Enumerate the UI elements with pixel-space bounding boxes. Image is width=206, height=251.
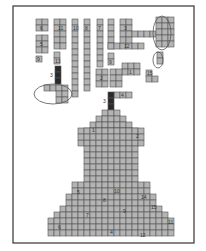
grid-cell: [162, 212, 168, 218]
piece-label: 8: [85, 25, 88, 31]
grid-cell: [120, 122, 126, 128]
grid-cell: [84, 158, 90, 164]
grid-cell: [126, 188, 132, 194]
grid-cell: [96, 134, 102, 140]
grid-cell: [84, 128, 90, 134]
grid-cell: [114, 110, 120, 116]
grid-cell: [138, 43, 144, 49]
grid-cell: [90, 170, 96, 176]
grid-cell: [144, 31, 150, 37]
grid-cell: [96, 122, 102, 128]
grid-cell: [84, 55, 90, 61]
grid-cell: [60, 43, 66, 49]
region-label: 8: [103, 197, 106, 203]
region-label: 6: [58, 224, 61, 230]
grid-cell: [72, 218, 78, 224]
piece-18: 15: [146, 70, 153, 76]
grid-cell: [114, 152, 120, 158]
grid-cell: [134, 63, 140, 69]
grid-cell: [126, 230, 132, 236]
grid-cell: [108, 92, 114, 98]
grid-cell: [72, 43, 78, 49]
grid-cell: [90, 140, 96, 146]
piece-label: 3: [50, 72, 53, 78]
grid-cell: [66, 194, 72, 200]
grid-cell: [78, 224, 84, 230]
grid-cell: [132, 158, 138, 164]
dark-piece-0: 3: [50, 66, 61, 84]
piece-0: 6: [36, 19, 48, 31]
grid-cell: [60, 230, 66, 236]
grid-cell: [90, 206, 96, 212]
grid-cell: [120, 116, 126, 122]
grid-cell: [114, 224, 120, 230]
grid-cell: [72, 37, 78, 43]
grid-cell: [132, 194, 138, 200]
grid-cell: [108, 164, 114, 170]
grid-cell: [90, 152, 96, 158]
piece-label: 10: [73, 25, 79, 31]
piece-label: 1: [129, 69, 132, 75]
grid-cell: [102, 206, 108, 212]
grid-cell: [138, 140, 144, 146]
region-label: 14: [141, 194, 147, 200]
grid-cell: [126, 182, 132, 188]
grid-cell: [90, 188, 96, 194]
grid-cell: [84, 43, 90, 49]
grid-cell: [84, 85, 90, 91]
grid-cell: [36, 47, 42, 53]
grid-cell: [114, 200, 120, 206]
grid-cell: [72, 85, 78, 91]
grid-cell: [84, 79, 90, 85]
grid-cell: [60, 224, 66, 230]
grid-cell: [120, 164, 126, 170]
grid-cell: [116, 75, 122, 81]
grid-cell: [90, 218, 96, 224]
grid-cell: [126, 164, 132, 170]
grid-cell: [84, 31, 90, 37]
grid-cell: [102, 152, 108, 158]
grid-cell: [162, 29, 168, 35]
grid-cell: [116, 81, 122, 87]
grid-cell: [156, 17, 162, 23]
grid-cell: [126, 122, 132, 128]
grid-cell: [168, 230, 174, 236]
grid-cell: [132, 31, 138, 37]
grid-cell: [156, 230, 162, 236]
grid-cell: [96, 81, 102, 87]
grid-cell: [114, 212, 120, 218]
grid-cell: [144, 218, 150, 224]
grid-cell: [55, 72, 61, 78]
grid-cell: [126, 140, 132, 146]
grid-cell: [132, 170, 138, 176]
grid-cell: [97, 49, 103, 55]
piece-19: [146, 76, 158, 82]
grid-cell: [150, 224, 156, 230]
grid-cell: [96, 164, 102, 170]
grid-cell: [126, 152, 132, 158]
grid-cell: [55, 66, 61, 72]
grid-cell: [120, 176, 126, 182]
piece-10: 3: [120, 19, 132, 43]
grid-cell: [84, 61, 90, 67]
grid-cell: [78, 134, 84, 140]
region-label: 5: [77, 189, 80, 195]
grid-cell: [114, 206, 120, 212]
grid-cell: [102, 134, 108, 140]
grid-cell: [102, 212, 108, 218]
grid-cell: [120, 146, 126, 152]
grid-cell: [84, 134, 90, 140]
grid-cell: [96, 182, 102, 188]
grid-cell: [108, 218, 114, 224]
grid-cell: [132, 206, 138, 212]
grid-cell: [96, 206, 102, 212]
grid-cell: [126, 212, 132, 218]
grid-cell: [114, 146, 120, 152]
grid-cell: [108, 140, 114, 146]
grid-cell: [144, 224, 150, 230]
grid-cell: [126, 37, 132, 43]
region-label: 4: [110, 229, 113, 235]
grid-cell: [120, 31, 126, 37]
grid-cell: [84, 188, 90, 194]
grid-cell: [108, 98, 114, 104]
